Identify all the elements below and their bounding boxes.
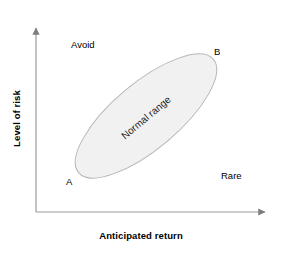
point-label-b: B	[214, 46, 220, 57]
region-label-rare: Rare	[221, 170, 242, 181]
point-label-a: A	[66, 176, 72, 187]
region-label-avoid: Avoid	[71, 39, 95, 50]
risk-return-diagram: Anticipated return Level of risk Normal …	[0, 0, 282, 254]
x-axis-title: Anticipated return	[0, 230, 282, 241]
y-axis-title: Level of risk	[11, 59, 22, 179]
